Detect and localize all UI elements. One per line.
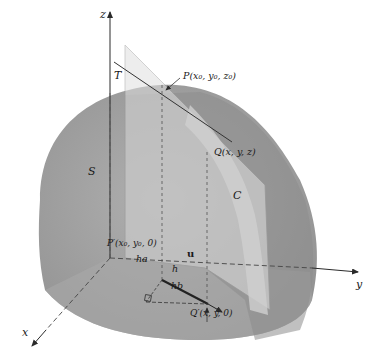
ha-label: ha [136,253,148,264]
surface-label: S [88,165,96,178]
y-axis [312,268,358,272]
hb-label: hb [171,280,183,291]
y-axis-label: y [355,278,363,291]
directional-derivative-diagram: z y x S T C P(x₀, y₀, z₀) Q(x, y, z) P′(… [0,0,381,349]
point-Q-prime-label: Q′(x, y, 0) [190,308,233,318]
x-axis [32,330,46,346]
z-axis-label: z [99,8,106,21]
point-P-prime-label: P′(x₀, y₀, 0) [106,238,157,248]
point-Q-label: Q(x, y, z) [214,146,256,157]
curve-label: C [233,189,242,202]
unit-vector-label: u [187,248,194,259]
point-P-label: P(x₀, y₀, z₀) [182,70,236,81]
h-label: h [172,263,178,274]
tangent-line-label: T [114,69,123,82]
x-axis-label: x [22,326,29,339]
